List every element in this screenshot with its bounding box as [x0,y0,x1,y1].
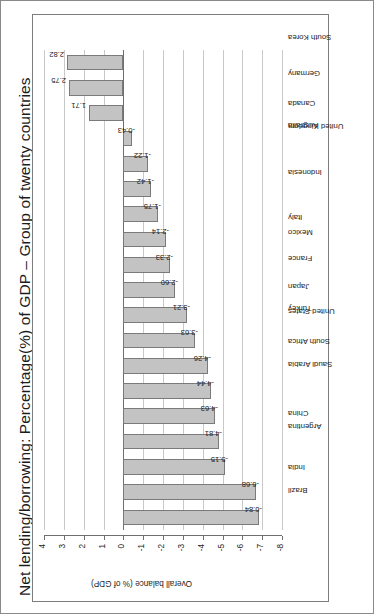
bar-value-label: -6.68 [242,480,259,489]
category-label: Indonesia [288,168,322,177]
bar-value-label: -2.60 [161,278,178,287]
bar-value-label: -1.42 [137,177,154,186]
bar [67,55,123,71]
axis-tick-label: -5 [217,544,226,574]
gridline [203,50,204,530]
axis-tick-label: 4 [38,544,47,574]
value-axis-title: Overall balance (% of GDP) [91,579,192,588]
axis-tick-mark [64,536,65,540]
axis-tick-label: 0 [117,544,126,574]
axis-tick-mark [223,536,224,540]
bar [123,510,259,526]
category-label: France [288,254,312,263]
axis-tick-label: -3 [177,544,186,574]
bar-value-label: -1.75 [144,202,161,211]
axis-tick-mark [143,536,144,540]
category-label: South Africa [288,337,330,346]
gridline [44,50,45,530]
axis-tick-mark [104,536,105,540]
axis-tick-label: 1 [98,544,107,574]
category-label: Brazil [288,486,308,495]
bar-value-label: 2.82 [50,50,65,59]
bar-value-label: 1.71 [72,101,87,110]
axis-tick-mark [282,536,283,540]
category-label: Turkey [288,305,312,314]
gridline [242,50,243,530]
category-label: South Korea [288,32,331,41]
axis-tick-label: 3 [58,544,67,574]
category-label: Mexico [288,228,313,237]
axis-tick-label: 2 [78,544,87,574]
axis-tick-mark [163,536,164,540]
category-label: China [288,409,308,418]
bar-value-label: -2.33 [155,253,172,262]
bar-value-label: -4.63 [201,404,218,413]
bar [123,484,255,500]
plot-area: -6.84-6.68-5.15-4.81-4.63-4.44-4.26-3.63… [44,50,282,530]
bar-value-label: -6.84 [245,505,262,514]
axis-tick-mark [84,536,85,540]
axis-tick-label: -7 [256,544,265,574]
rotated-figure-wrapper: Net lending/borrowing: Percentage(%) of … [0,0,374,614]
axis-tick-mark [183,536,184,540]
axis-tick-mark [44,536,45,540]
category-label: Australia [288,121,318,130]
bar-value-label: 2.75 [51,76,66,85]
bar-value-label: -4.26 [194,354,211,363]
chart-figure: Net lending/borrowing: Percentage(%) of … [0,0,374,614]
gridline [104,50,105,530]
scanned-page: Net lending/borrowing: Percentage(%) of … [0,0,374,614]
bar-value-label: -4.81 [204,429,221,438]
gridline [64,50,65,530]
bar-value-label: -1.22 [133,151,150,160]
gridline [84,50,85,530]
gridline [262,50,263,530]
axis-tick-mark [123,536,124,540]
bar-value-label: -3.21 [173,303,190,312]
bar-value-label: -4.44 [197,379,214,388]
category-label: India [288,463,305,472]
bar-value-label: -3.63 [181,328,198,337]
category-label: Argentina [288,421,321,430]
axis-tick-label: -1 [137,544,146,574]
category-label: Italy [288,213,302,222]
axis-tick-mark [262,536,263,540]
axis-tick-mark [203,536,204,540]
bar-value-label: -0.43 [118,126,135,135]
category-label: Canada [288,99,315,108]
bar [69,80,124,96]
axis-tick-mark [242,536,243,540]
axis-tick-label: -6 [236,544,245,574]
axis-tick-label: -2 [157,544,166,574]
axis-tick-label: -8 [276,544,285,574]
category-label: Saudi Arabia [288,360,332,369]
gridline [282,50,283,530]
bar [89,105,123,121]
bar-value-label: -2.14 [151,227,168,236]
bar-value-label: -5.15 [211,455,228,464]
axis-tick-label: -4 [197,544,206,574]
gridline [183,50,184,530]
category-label: Japan [288,282,309,291]
category-label: Germany [288,69,320,78]
